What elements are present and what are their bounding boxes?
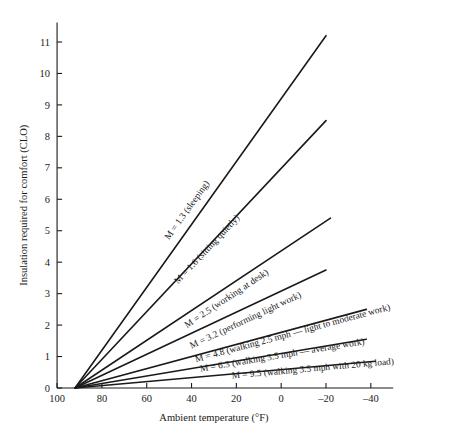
y-tick-label: 9: [45, 100, 50, 111]
plot-area: 01234567891011100806040200–20–40 M = 1.3…: [0, 0, 450, 441]
x-tick-label: –40: [362, 393, 379, 404]
y-tick-label: 7: [45, 162, 50, 173]
x-tick-label: 60: [141, 393, 152, 404]
series-label-0: M = 1.3 (sleeping): [163, 179, 212, 242]
y-tick-label: 10: [40, 68, 51, 79]
x-tick-label: 100: [49, 393, 65, 404]
x-axis-title: Ambient temperature (°F): [159, 412, 269, 424]
x-tick-label: 40: [186, 393, 197, 404]
y-axis-title: Insulation required for comfort (CLO): [18, 124, 30, 285]
y-tick-label: 1: [45, 351, 50, 362]
y-tick-label: 3: [45, 288, 50, 299]
y-tick-label: 11: [40, 37, 50, 48]
series-inline-labels: M = 1.3 (sleeping)M = 1.6 (sitting quiet…: [163, 179, 395, 382]
y-tick-label: 0: [45, 383, 50, 394]
y-tick-label: 2: [45, 320, 50, 331]
data-series-lines: [75, 36, 375, 388]
y-tick-label: 8: [45, 131, 50, 142]
y-tick-label: 5: [45, 225, 50, 236]
x-tick-label: 20: [231, 393, 242, 404]
y-tick-label: 6: [45, 194, 50, 205]
insulation-vs-temperature-chart: 01234567891011100806040200–20–40 M = 1.3…: [0, 0, 450, 441]
y-tick-label: 4: [45, 257, 51, 268]
series-label-2: M = 2.5 (working at desk): [183, 267, 271, 331]
x-tick-label: –20: [317, 393, 334, 404]
x-tick-label: 80: [97, 393, 108, 404]
x-tick-label: 0: [279, 393, 284, 404]
